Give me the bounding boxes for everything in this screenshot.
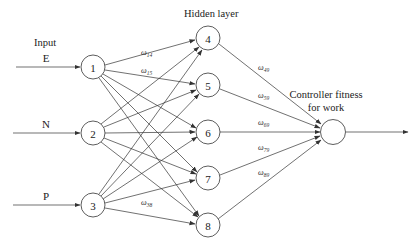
- hidden-output-edges: [218, 44, 321, 219]
- input-layer-label: Input: [34, 37, 56, 48]
- weight-label-w14: ω14: [141, 48, 152, 58]
- svg-text:8: 8: [205, 220, 211, 232]
- input-node-1: 1: [81, 55, 105, 79]
- neural-network-diagram: 1 2 3 4 5 6 7 8 Input Hidden layer Contr…: [0, 0, 418, 249]
- output-node: [321, 120, 346, 145]
- svg-text:2: 2: [90, 128, 96, 140]
- hidden-node-5: 5: [196, 73, 220, 97]
- weight-label-w79: ω79: [258, 143, 269, 153]
- input-label-p: P: [43, 190, 49, 202]
- input-node-2: 2: [81, 121, 105, 145]
- hidden-node-4: 4: [196, 26, 220, 50]
- hidden-node-6: 6: [196, 120, 220, 144]
- weight-label-w69: ω69: [258, 118, 269, 128]
- svg-text:5: 5: [205, 80, 211, 92]
- output-label-line2: for work: [308, 102, 345, 113]
- input-label-e: E: [43, 52, 50, 64]
- input-arrows: [13, 67, 80, 205]
- input-label-n: N: [42, 118, 50, 130]
- weight-label-w15: ω15: [141, 66, 152, 76]
- output-label-line1: Controller fitness: [289, 89, 362, 100]
- svg-text:1: 1: [90, 62, 96, 74]
- svg-text:6: 6: [205, 127, 211, 139]
- hidden-node-7: 7: [196, 166, 220, 190]
- input-hidden-edges: [99, 40, 202, 224]
- weight-label-w49: ω49: [258, 63, 269, 73]
- svg-text:3: 3: [90, 200, 96, 212]
- weight-label-w38: ω38: [141, 198, 152, 208]
- svg-text:4: 4: [205, 33, 211, 45]
- hidden-node-8: 8: [196, 213, 220, 237]
- hidden-layer-label: Hidden layer: [184, 8, 239, 19]
- weight-label-w89: ω89: [258, 168, 269, 178]
- svg-text:7: 7: [205, 173, 211, 185]
- weight-label-w59: ω59: [258, 91, 269, 101]
- input-node-3: 3: [81, 193, 105, 217]
